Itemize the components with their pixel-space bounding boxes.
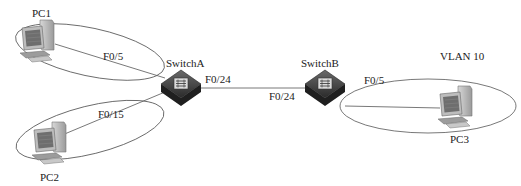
pc2-icon — [32, 122, 66, 164]
port-label-pc2: F0/15 — [98, 109, 124, 120]
pc1-label: PC1 — [32, 8, 51, 19]
network-topology-diagram — [0, 0, 521, 186]
vlan10-label: VLAN 10 — [440, 51, 484, 62]
pc2-label: PC2 — [40, 172, 59, 183]
switch-b-label: SwitchB — [301, 58, 339, 69]
switch-a-label: SwitchA — [166, 58, 205, 69]
switch-b-icon — [305, 70, 345, 106]
port-label-pc3: F0/5 — [364, 75, 384, 86]
link-switch-b-pc3 — [345, 106, 440, 108]
port-label-pc1: F0/5 — [103, 51, 123, 62]
pc3-label: PC3 — [450, 134, 469, 145]
port-label-switch-a-trunk: F0/24 — [205, 74, 231, 85]
switch-a-icon — [161, 70, 201, 106]
pc1-icon — [20, 20, 54, 62]
port-label-switch-b-trunk: F0/24 — [269, 91, 295, 102]
pc3-icon — [438, 86, 472, 128]
vlan10-ellipse — [340, 79, 516, 133]
